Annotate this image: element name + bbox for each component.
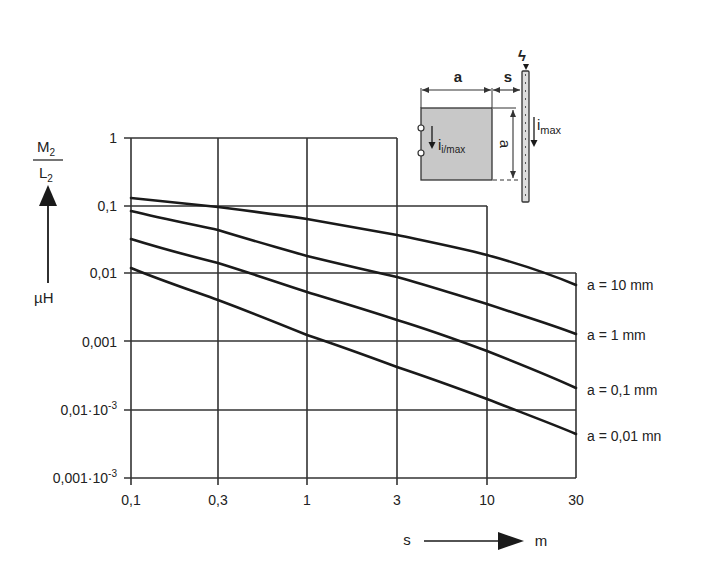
dim-a-horizontal: a [454, 68, 463, 85]
x-tick-labels: 0,1 0,3 1 3 10 30 [121, 492, 584, 508]
conductor-current-label: imax [537, 116, 562, 136]
loop-terminal-bottom [418, 150, 424, 156]
x-axis-arrow-icon [498, 532, 524, 550]
y-tick-labels: 1 0,1 0,01 0,001 0,01·10-3 0,001·10-3 [53, 130, 118, 486]
y-numerator: M2 [37, 138, 56, 158]
curve-a-10mm [131, 198, 576, 285]
legend-a-10mm: a = 10 mm [587, 277, 654, 293]
y-axis-label: M2 L2 µH [33, 138, 63, 306]
legend-a-1mm: a = 1 mm [587, 327, 646, 343]
y-tick-0.01: 0,01 [90, 265, 117, 281]
y-tick-0.01e-3: 0,01·10-3 [61, 400, 118, 418]
legend-a-0.01mm: a = 0,01 mn [587, 428, 661, 444]
y-denominator: L2 [39, 164, 53, 184]
x-tick-3: 3 [393, 492, 401, 508]
x-tick-0.3: 0,3 [208, 492, 228, 508]
curve-a-0.01mm [131, 268, 576, 434]
x-var-label: s [403, 531, 411, 548]
legend: a = 10 mm a = 1 mm a = 0,1 mm a = 0,01 m… [587, 277, 661, 444]
y-tick-0.001: 0,001 [82, 334, 117, 350]
x-axis-label: s m [403, 531, 547, 550]
legend-a-0.1mm: a = 0,1 mm [587, 382, 657, 398]
x-tick-10: 10 [479, 492, 495, 508]
y-unit-label: µH [34, 289, 53, 306]
y-tick-0.001e-3: 0,001·10-3 [53, 468, 118, 486]
dim-a-vertical: a [497, 140, 514, 149]
x-tick-30: 30 [568, 492, 584, 508]
y-tick-0.1: 0,1 [98, 198, 118, 214]
x-unit-label: m [535, 532, 548, 549]
chart-svg: 1 0,1 0,01 0,001 0,01·10-3 0,001·10-3 0,… [0, 0, 723, 584]
dim-s: s [504, 68, 512, 85]
inset-diagram: ii/max a s a ϟ imax [418, 47, 562, 202]
y-axis-arrow-icon [39, 185, 57, 206]
y-tick-1: 1 [109, 130, 117, 146]
x-tick-0.1: 0,1 [121, 492, 141, 508]
curves [131, 198, 576, 434]
loop-terminal-top [418, 125, 424, 131]
lightning-bolt-icon: ϟ [518, 47, 526, 64]
x-tick-1: 1 [303, 492, 311, 508]
conductor-current-arrow-icon [531, 140, 538, 147]
